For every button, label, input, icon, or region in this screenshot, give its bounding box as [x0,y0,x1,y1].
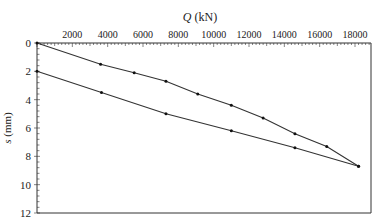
x-tick-label: 18000 [343,29,368,40]
y-tick-label: 2 [26,65,32,77]
y-tick-label: 8 [26,150,32,162]
data-point [293,132,296,135]
y-tick-label: 0 [26,37,32,49]
x-tick-label: 8000 [168,29,188,40]
data-point [230,104,233,107]
y-tick-label: 10 [20,179,32,191]
x-tick-label: 2000 [62,29,82,40]
data-point [164,80,167,83]
x-tick-label: 4000 [98,29,118,40]
x-tick-label: 14000 [272,29,297,40]
x-tick-label: 16000 [307,29,332,40]
x-tick-label: 10000 [201,29,226,40]
data-point [100,91,103,94]
axes: 2000400060008000100001200014000160001800… [20,29,371,219]
y-tick-label: 12 [20,207,31,219]
x-tick-label: 12000 [237,29,262,40]
x-axis-label: Q (kN) [183,10,217,24]
data-point [196,93,199,96]
series-line-loading [37,43,359,166]
x-tick-label: 6000 [133,29,153,40]
series-group [36,42,361,168]
data-point [36,42,39,45]
data-point [133,71,136,74]
data-point [36,70,39,73]
series-line-unloading [37,71,359,166]
y-tick-label: 4 [26,94,32,106]
load-settlement-chart: 2000400060008000100001200014000160001800… [0,0,384,223]
data-point [99,63,102,66]
data-point [325,145,328,148]
y-axis-label: s (mm) [1,112,14,144]
data-point [230,129,233,132]
data-point [293,146,296,149]
data-point [357,165,360,168]
data-point [164,112,167,115]
data-point [262,117,265,120]
y-tick-label: 6 [26,122,32,134]
